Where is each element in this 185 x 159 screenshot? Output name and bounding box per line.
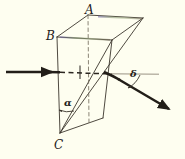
vertex-label-A: A	[85, 4, 94, 16]
vertex-label-B: B	[46, 30, 55, 42]
vertex-label-C: C	[54, 139, 63, 151]
hidden-edge-A-vertical	[88, 15, 89, 124]
spectrum-edge-top-rear	[98, 17, 142, 19]
angle-label-delta: δ	[130, 69, 137, 79]
prism-hidden-edges	[88, 15, 89, 124]
edge-inner-fold-to-C	[60, 118, 103, 133]
edge-frontright-to-C	[60, 40, 112, 133]
edge-R-to-frontright	[112, 18, 143, 40]
prism-refraction-figure: A B C α δ	[0, 0, 185, 159]
edge-B-to-A	[57, 15, 88, 37]
emergent-ray-line	[118, 79, 169, 109]
figure-canvas	[0, 0, 185, 159]
edge-B-to-C	[57, 37, 60, 133]
angle-alpha-marker	[59, 110, 74, 112]
angle-label-alpha: α	[64, 98, 72, 108]
angle-alpha-arc	[59, 110, 74, 112]
emergent-ray-curve	[104, 72, 120, 80]
spectrum-edge-top-front	[60, 37, 110, 40]
edge-frontright-to-fold	[103, 40, 112, 118]
